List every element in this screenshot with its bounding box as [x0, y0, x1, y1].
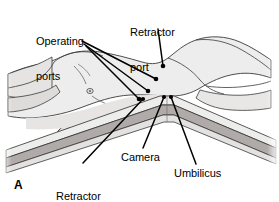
label-operating-ports-line2: ports [36, 71, 84, 83]
port-marker-operating-3 [137, 97, 142, 102]
label-retractor-port-top-line2: port [130, 62, 175, 74]
right-edge-fade [267, 0, 279, 202]
figure-panel-a: Operating ports Retractor port Camera Um… [0, 0, 279, 202]
label-retractor-port-top: Retractor port [130, 4, 175, 96]
gluteal-fold [206, 81, 271, 88]
label-retractor-port-top-line1: Retractor [130, 27, 175, 39]
label-retractor-port-bottom: Retractor port [56, 168, 101, 202]
lower-thigh-mass [196, 90, 271, 110]
label-umbilicus: Umbilicus [174, 168, 221, 180]
label-retractor-port-bottom-line1: Retractor [56, 191, 101, 202]
label-operating-ports: Operating ports [36, 13, 84, 105]
panel-letter: A [14, 178, 23, 192]
port-marker-retractor-bottom [141, 97, 145, 101]
label-operating-ports-line1: Operating [36, 36, 84, 48]
nipple-center [89, 90, 91, 92]
label-camera: Camera [121, 152, 160, 164]
left-edge-fade [0, 0, 12, 202]
